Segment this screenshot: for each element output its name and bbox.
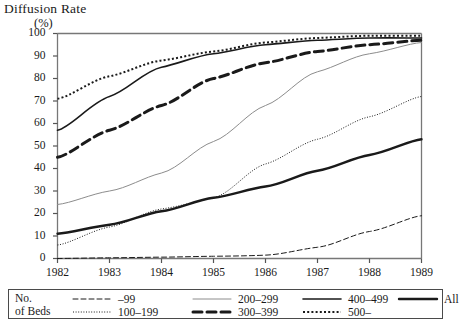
legend-swatch xyxy=(71,307,113,317)
x-axis-label: 1988 xyxy=(347,266,393,278)
legend-item[interactable]: 200–299 xyxy=(191,292,278,306)
legend-title-line1: No. xyxy=(15,292,50,305)
legend-swatch xyxy=(71,294,113,304)
y-axis-label: 40 xyxy=(18,161,46,173)
legend-item[interactable]: All xyxy=(397,292,459,306)
legend-swatch xyxy=(301,307,343,317)
legend-label: 300–399 xyxy=(238,306,278,318)
legend-label: 500– xyxy=(348,306,371,318)
legend-swatch xyxy=(397,294,439,304)
legend-item[interactable]: 500– xyxy=(301,305,371,319)
y-axis-label: 60 xyxy=(18,116,46,128)
chart-legend: No. of Beds –99100–199200–299300–399400–… xyxy=(8,289,443,319)
y-axis-label: 30 xyxy=(18,184,46,196)
y-axis-label: 80 xyxy=(18,71,46,83)
legend-title: No. of Beds xyxy=(15,292,50,318)
y-axis-label: 50 xyxy=(18,139,46,151)
legend-swatch xyxy=(191,294,233,304)
y-axis-label: 20 xyxy=(18,206,46,218)
legend-swatch xyxy=(301,294,343,304)
x-axis-label: 1986 xyxy=(243,266,289,278)
legend-label: 400–499 xyxy=(348,293,388,305)
series-line xyxy=(58,216,422,259)
y-axis-label: 90 xyxy=(18,49,46,61)
y-axis-label: 10 xyxy=(18,229,46,241)
legend-item[interactable]: –99 xyxy=(71,292,135,306)
legend-swatch xyxy=(191,307,233,317)
plot-area: 0102030405060708090100198219831984198519… xyxy=(0,0,455,285)
series-line xyxy=(58,36,422,99)
series-line xyxy=(58,43,422,205)
legend-item[interactable]: 300–399 xyxy=(191,305,278,319)
series-line xyxy=(58,139,422,234)
y-axis-label: 70 xyxy=(18,94,46,106)
y-axis-label: 100 xyxy=(18,26,46,38)
legend-label: 200–299 xyxy=(238,293,278,305)
x-axis-label: 1983 xyxy=(87,266,133,278)
x-axis-label: 1985 xyxy=(191,266,237,278)
line-chart-svg xyxy=(0,0,455,285)
series-line xyxy=(58,97,422,246)
x-axis-label: 1989 xyxy=(399,266,445,278)
x-axis-label: 1984 xyxy=(139,266,185,278)
legend-label: –99 xyxy=(118,293,135,305)
y-axis-label: 0 xyxy=(18,251,46,263)
legend-title-line2: of Beds xyxy=(15,305,50,318)
legend-item[interactable]: 100–199 xyxy=(71,305,158,319)
x-axis-label: 1987 xyxy=(295,266,341,278)
legend-label: 100–199 xyxy=(118,306,158,318)
legend-item[interactable]: 400–499 xyxy=(301,292,388,306)
legend-label: All xyxy=(444,293,459,305)
series-line xyxy=(58,38,422,130)
series-line xyxy=(58,40,422,157)
x-axis-label: 1982 xyxy=(35,266,81,278)
